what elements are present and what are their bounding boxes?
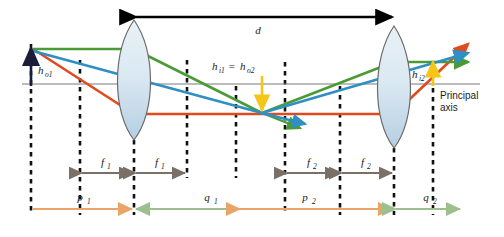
svg-text:axis: axis <box>440 102 458 113</box>
svg-text:1: 1 <box>107 162 111 171</box>
svg-text:q: q <box>204 191 210 203</box>
svg-text:q: q <box>423 191 429 203</box>
svg-text:=: = <box>228 60 235 72</box>
svg-text:i2: i2 <box>419 74 425 83</box>
svg-text:1: 1 <box>161 162 165 171</box>
optics-ray-diagram: d h o1 h i1 = h o2 h i2 <box>0 0 504 237</box>
svg-text:Principal: Principal <box>440 90 478 101</box>
svg-text:h: h <box>240 60 246 72</box>
svg-text:2: 2 <box>433 197 437 206</box>
svg-text:i1: i1 <box>219 66 225 75</box>
svg-text:p: p <box>76 191 83 203</box>
svg-text:h: h <box>412 68 418 80</box>
svg-text:2: 2 <box>313 162 317 171</box>
svg-text:2: 2 <box>312 197 316 206</box>
svg-text:o2: o2 <box>247 66 255 75</box>
svg-text:h: h <box>212 60 218 72</box>
svg-text:1: 1 <box>214 197 218 206</box>
svg-text:p: p <box>301 191 308 203</box>
separation-label: d <box>255 24 261 36</box>
svg-text:1: 1 <box>87 197 91 206</box>
svg-text:2: 2 <box>367 162 371 171</box>
svg-text:o1: o1 <box>45 70 53 79</box>
svg-text:h: h <box>38 64 44 76</box>
